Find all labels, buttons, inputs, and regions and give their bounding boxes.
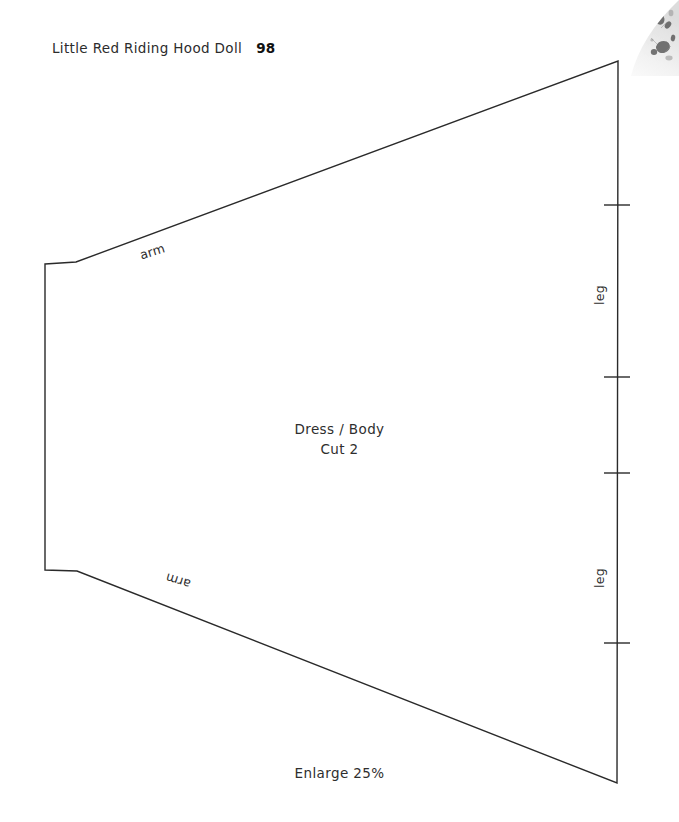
label-leg-top: leg: [592, 285, 607, 305]
pattern-outline-drawing: [0, 0, 679, 822]
label-leg-bottom: leg: [592, 568, 607, 588]
piece-name: Dress / Body: [0, 420, 679, 440]
cut-instruction: Cut 2: [0, 440, 679, 460]
piece-identification: Dress / Body Cut 2: [0, 420, 679, 459]
pattern-sheet-page: Little Red Riding Hood Doll 98: [0, 0, 679, 822]
scale-note: Enlarge 25%: [0, 765, 679, 781]
